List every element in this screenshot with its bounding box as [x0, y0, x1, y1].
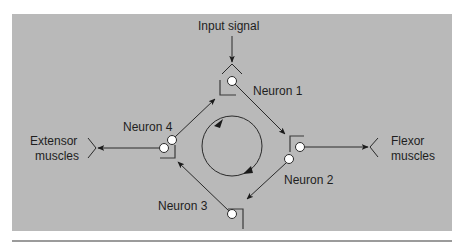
neuron-1-soma-icon — [228, 77, 237, 86]
neuron-4-collateral-soma-icon — [160, 144, 169, 153]
neuron-1-label: Neuron 1 — [253, 84, 303, 98]
flexor-label-line1: Flexor — [391, 134, 424, 148]
neuron-4-label: Neuron 4 — [123, 120, 173, 134]
reverberating-circuit-diagram: Input signal Neuron 1 Neuron 2 Flexor mu… — [0, 0, 462, 245]
neuron-2-collateral-soma-icon — [285, 155, 294, 164]
input-signal-label: Input signal — [198, 19, 259, 33]
extensor-label-line1: Extensor — [30, 134, 77, 148]
neuron-2-label: Neuron 2 — [284, 173, 334, 187]
neuron-4-soma-icon — [168, 136, 177, 145]
neuron-2-soma-icon — [296, 143, 305, 152]
extensor-label-line2: muscles — [35, 149, 79, 163]
neuron-3-soma-icon — [228, 210, 237, 219]
neuron-3-label: Neuron 3 — [158, 199, 208, 213]
flexor-label-line2: muscles — [391, 149, 435, 163]
